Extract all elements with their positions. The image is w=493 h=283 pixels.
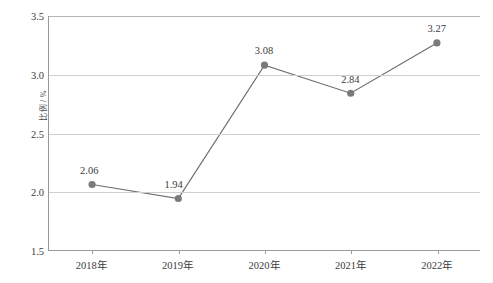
x-axis-tick <box>179 250 180 254</box>
y-axis-tick-label: 1.5 <box>0 246 44 257</box>
x-axis-tick-label: 2020年 <box>249 257 280 272</box>
x-axis-tick-label: 2018年 <box>76 257 107 272</box>
data-point-marker[interactable] <box>433 39 440 46</box>
x-axis-tick <box>92 250 93 254</box>
data-point-label: 2.84 <box>341 74 359 85</box>
y-axis-tick-label: 2.5 <box>0 128 44 139</box>
data-point-marker[interactable] <box>261 62 268 69</box>
gridline <box>49 75 480 76</box>
line-chart: 比例 / % 1.52.02.53.03.5 2.061.943.082.843… <box>0 0 493 283</box>
y-axis-tick-labels: 1.52.02.53.03.5 <box>0 0 44 283</box>
data-point-label: 3.08 <box>255 45 273 56</box>
x-axis-tick <box>351 250 352 254</box>
x-axis-tick <box>265 250 266 254</box>
gridline <box>49 192 480 193</box>
x-axis-tick-label: 2019年 <box>162 257 193 272</box>
gridline <box>49 134 480 135</box>
x-axis-tick <box>438 250 439 254</box>
y-axis-tick-label: 3.5 <box>0 11 44 22</box>
data-point-label: 3.27 <box>428 23 446 34</box>
data-point-marker[interactable] <box>175 195 182 202</box>
data-point-label: 1.94 <box>164 179 182 190</box>
x-axis-tick-label: 2021年 <box>335 257 366 272</box>
y-axis-tick-label: 2.0 <box>0 187 44 198</box>
data-point-label: 2.06 <box>80 165 98 176</box>
data-point-marker[interactable] <box>347 90 354 97</box>
y-axis-tick-label: 3.0 <box>0 69 44 80</box>
data-point-marker[interactable] <box>89 181 96 188</box>
gridline <box>49 16 480 17</box>
x-axis-tick-label: 2022年 <box>421 257 452 272</box>
